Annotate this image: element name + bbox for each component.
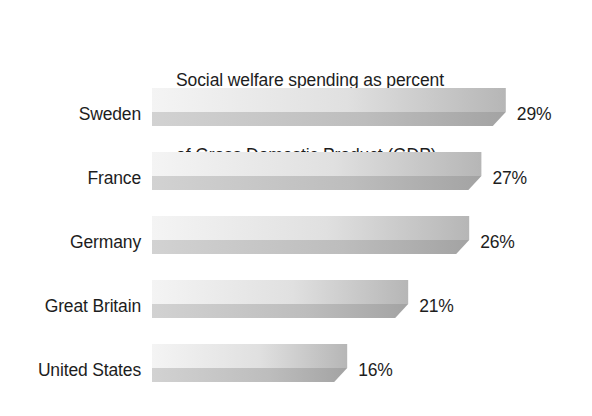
category-label-united-states: United States [0, 360, 141, 381]
bar-row: France27% [0, 152, 592, 204]
category-label-great-britain: Great Britain [0, 296, 141, 317]
bar-united-states [152, 344, 351, 396]
bar-row: Sweden29% [0, 88, 592, 140]
value-label-sweden: 29% [517, 104, 552, 125]
chart-figure: Social welfare spending as percent of Gr… [0, 0, 592, 416]
bar-row: Great Britain21% [0, 280, 592, 332]
bar-germany [152, 216, 473, 268]
plot-area: Sweden29%France27%Germany26%Great Britai… [0, 86, 592, 411]
value-label-great-britain: 21% [419, 296, 454, 317]
bar-great-britain [152, 280, 412, 332]
value-label-germany: 26% [480, 232, 515, 253]
category-label-france: France [0, 168, 141, 189]
bar-france [152, 152, 485, 204]
category-label-germany: Germany [0, 232, 141, 253]
bar-sweden [152, 88, 510, 140]
bar-row: United States16% [0, 344, 592, 396]
value-label-united-states: 16% [358, 360, 393, 381]
category-label-sweden: Sweden [0, 104, 141, 125]
bar-row: Germany26% [0, 216, 592, 268]
value-label-france: 27% [492, 168, 527, 189]
